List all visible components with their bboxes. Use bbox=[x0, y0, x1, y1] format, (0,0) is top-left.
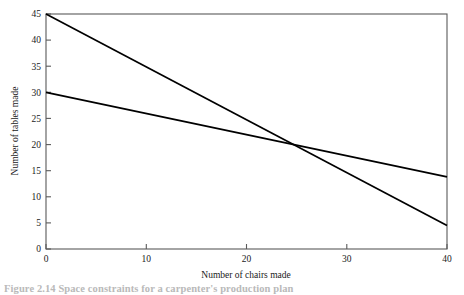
x-axis-title: Number of chairs made bbox=[201, 270, 290, 280]
constraint-line-shallow bbox=[46, 92, 447, 177]
x-tick-label: 30 bbox=[342, 254, 352, 264]
y-tick-label: 25 bbox=[32, 114, 42, 124]
y-tick-label: 45 bbox=[32, 9, 42, 19]
plot-frame bbox=[46, 14, 447, 249]
y-tick-labels: 0 5 10 15 20 25 30 35 40 45 bbox=[32, 9, 42, 254]
y-axis-title: Number of tables made bbox=[10, 87, 20, 176]
data-lines bbox=[46, 14, 447, 226]
x-axis-ticks bbox=[46, 244, 447, 249]
x-tick-label: 0 bbox=[44, 254, 49, 264]
y-tick-label: 10 bbox=[32, 192, 42, 202]
y-tick-label: 35 bbox=[32, 62, 42, 72]
x-tick-label: 20 bbox=[242, 254, 252, 264]
x-tick-labels: 0 10 20 30 40 bbox=[44, 254, 452, 264]
y-tick-label: 20 bbox=[32, 140, 42, 150]
constraint-line-steep bbox=[46, 14, 447, 226]
x-tick-label: 10 bbox=[142, 254, 152, 264]
chart-canvas: 0 5 10 15 20 25 30 35 40 45 0 10 20 30 4… bbox=[0, 0, 464, 295]
figure-caption: Figure 2.14 Space constraints for a carp… bbox=[4, 283, 460, 294]
y-tick-label: 0 bbox=[36, 244, 41, 254]
y-tick-label: 30 bbox=[32, 88, 42, 98]
y-tick-label: 40 bbox=[32, 35, 42, 45]
y-tick-label: 15 bbox=[32, 166, 42, 176]
figure-container: 0 5 10 15 20 25 30 35 40 45 0 10 20 30 4… bbox=[0, 0, 464, 295]
y-tick-label: 5 bbox=[36, 218, 41, 228]
x-tick-label: 40 bbox=[442, 254, 452, 264]
y-axis-ticks bbox=[46, 14, 51, 249]
